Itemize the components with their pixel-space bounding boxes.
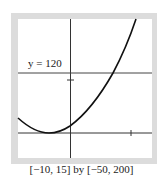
plot-area [18,19,152,158]
chart-plot [0,0,163,176]
hline-label: y = 120 [28,57,62,69]
window-caption: [−10, 15] by [−50, 200] [0,163,163,175]
